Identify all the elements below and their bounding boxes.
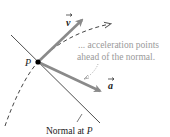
normal-label-prefix: Normal at — [46, 126, 87, 136]
normal-leader-line — [77, 114, 82, 122]
motion-diagram: P v a ... acceleration points ahead of t… — [0, 0, 170, 137]
normal-label-point: P — [86, 126, 93, 136]
point-p — [35, 59, 40, 64]
annotation-line-2: ahead of the normal. — [77, 52, 155, 62]
annotation-leader-arrow-icon — [84, 75, 89, 79]
velocity-label: v — [66, 17, 71, 28]
acceleration-label-group: a — [108, 78, 114, 92]
velocity-label-group: v — [66, 14, 72, 29]
acceleration-label: a — [108, 80, 113, 91]
acceleration-vector — [38, 62, 100, 91]
annotation-line-1: ... acceleration points — [78, 40, 159, 50]
normal-label: Normal at P — [46, 126, 93, 136]
point-label: P — [24, 57, 31, 68]
velocity-vector — [38, 20, 82, 62]
